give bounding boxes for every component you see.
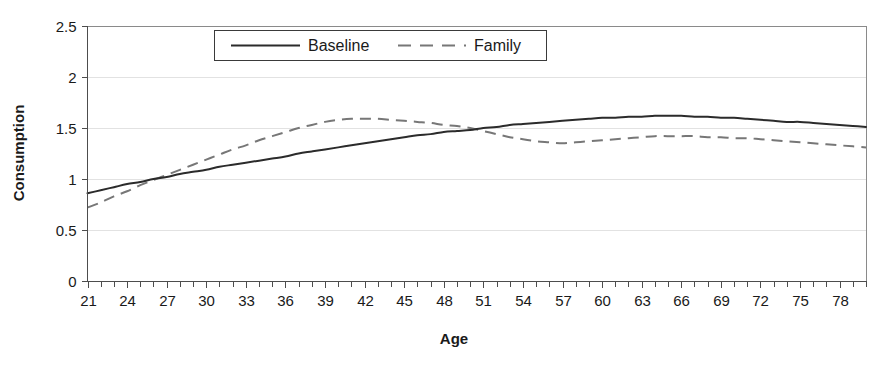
x-tick-label: 33 [238,292,255,309]
x-tick-label: 57 [555,292,572,309]
x-tick-label: 78 [832,292,849,309]
x-tick-label: 42 [357,292,374,309]
x-tick-label: 69 [713,292,730,309]
y-tick-label: 0 [68,273,76,290]
y-tick-label: 0.5 [56,222,77,239]
x-tick-label: 75 [792,292,809,309]
plot-frame [87,27,867,282]
x-tick-label: 39 [317,292,334,309]
y-axis-tick-labels: 00.511.522.5 [56,18,77,290]
x-axis-tick-labels: 2124273033363942454851545760636669727578 [80,292,849,309]
x-tick-label: 51 [475,292,492,309]
x-tick-label: 30 [198,292,215,309]
legend-label-baseline: Baseline [308,37,369,54]
x-tick-label: 60 [594,292,611,309]
x-tick-label: 72 [752,292,769,309]
x-tick-label: 54 [515,292,532,309]
y-tick-label: 2 [68,69,76,86]
legend-label-family: Family [474,37,521,54]
x-tick-label: 24 [119,292,136,309]
x-tick-label: 45 [396,292,413,309]
y-tick-label: 1.5 [56,120,77,137]
x-tick-label: 21 [80,292,97,309]
x-tick-label: 48 [436,292,453,309]
x-axis-title: Age [440,330,468,347]
consumption-by-age-chart: 00.511.522.5 212427303336394245485154576… [0,0,881,371]
y-tick-label: 1 [68,171,76,188]
y-axis-ticks [82,27,88,282]
x-tick-label: 63 [634,292,651,309]
x-tick-label: 66 [673,292,690,309]
chart-legend: Baseline Family [215,31,547,61]
x-tick-label: 27 [159,292,176,309]
x-tick-label: 36 [277,292,294,309]
series-line-family [88,119,867,208]
axis-lines [88,26,867,282]
y-tick-label: 2.5 [56,18,77,35]
y-axis-title: Consumption [10,105,27,202]
series-line-baseline [88,116,867,194]
